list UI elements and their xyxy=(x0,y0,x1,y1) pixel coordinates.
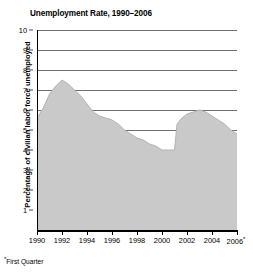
area-series-unemployment-rate xyxy=(37,30,237,230)
y-tick-label-1: 1 xyxy=(23,206,27,215)
y-tick-mark-4 xyxy=(29,150,33,151)
x-tick-mark-1996 xyxy=(112,231,113,235)
x-tick-mark-2000 xyxy=(162,231,163,235)
x-tick-label-1992: 1992 xyxy=(54,236,70,245)
x-tick-mark-1990 xyxy=(37,231,38,235)
y-tick-label-9: 9 xyxy=(23,46,27,55)
x-tick-label-2002: 2002 xyxy=(179,236,195,245)
x-tick-mark-2006 xyxy=(237,231,238,235)
y-tick-mark-5 xyxy=(29,130,33,131)
y-tick-mark-7 xyxy=(29,90,33,91)
plot-area xyxy=(37,30,237,230)
x-tick-label-1994: 1994 xyxy=(79,236,95,245)
y-tick-label-4: 4 xyxy=(23,146,27,155)
y-tick-mark-2 xyxy=(29,190,33,191)
y-tick-label-3: 3 xyxy=(23,166,27,175)
y-tick-label-6: 6 xyxy=(23,106,27,115)
x-tick-mark-1998 xyxy=(137,231,138,235)
y-tick-mark-3 xyxy=(29,170,33,171)
x-tick-mark-1992 xyxy=(62,231,63,235)
x-tick-label-1996: 1996 xyxy=(104,236,120,245)
x-tick-label-2000: 2000 xyxy=(154,236,170,245)
x-tick-label-1990: 1990 xyxy=(29,236,45,245)
y-axis-line xyxy=(37,30,38,231)
y-tick-mark-8 xyxy=(29,70,33,71)
y-tick-label-8: 8 xyxy=(23,66,27,75)
y-tick-label-7: 7 xyxy=(23,86,27,95)
x-tick-mark-2004 xyxy=(212,231,213,235)
y-tick-label-10: 10 xyxy=(19,26,27,35)
x-tick-mark-2002 xyxy=(187,231,188,235)
unemployment-rate-chart: Unemployment Rate, 1990–2006 Percentage … xyxy=(0,0,253,274)
y-tick-mark-9 xyxy=(29,50,33,51)
y-tick-label-2: 2 xyxy=(23,186,27,195)
y-tick-mark-6 xyxy=(29,110,33,111)
x-tick-label-1998: 1998 xyxy=(129,236,145,245)
y-axis-tick-group: 12345678910 xyxy=(0,30,33,230)
chart-title: Unemployment Rate, 1990–2006 xyxy=(30,9,152,18)
y-tick-mark-10 xyxy=(29,30,33,31)
chart-footnote: *First Quarter xyxy=(4,256,43,265)
x-axis-tick-group: 199019921994199619982000200220042006* xyxy=(0,236,253,248)
x-tick-mark-1994 xyxy=(87,231,88,235)
y-tick-label-5: 5 xyxy=(23,126,27,135)
y-tick-mark-1 xyxy=(29,210,33,211)
x-tick-label-2006: 2006* xyxy=(227,236,246,246)
x-tick-label-2004: 2004 xyxy=(204,236,220,245)
